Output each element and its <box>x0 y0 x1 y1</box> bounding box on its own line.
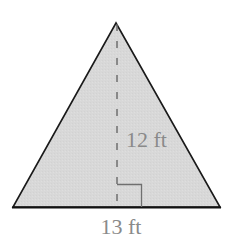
triangle-diagram: 12 ft 13 ft <box>0 0 227 236</box>
triangle-figure: 12 ft 13 ft <box>0 0 227 236</box>
base-label: 13 ft <box>101 214 142 236</box>
height-label: 12 ft <box>126 127 167 152</box>
